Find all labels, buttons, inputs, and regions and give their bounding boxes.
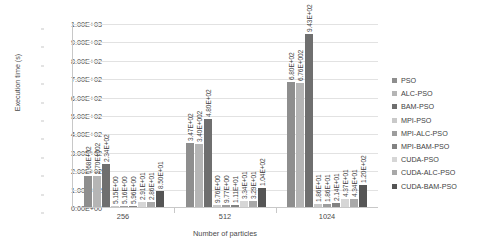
bar-value-label: 4.80E+02	[204, 89, 211, 117]
legend-item-mpi-alc-pso[interactable]: MPI-ALC-PSO	[392, 127, 484, 140]
bar-value-label: 2.14E+01	[333, 173, 340, 201]
bar[interactable]: 2.34E+02	[102, 164, 110, 207]
legend-item-cuda-alc-pso[interactable]: CUDA-ALC-PSO	[392, 166, 484, 179]
x-axis-separator	[174, 208, 175, 213]
bar[interactable]: 4.37E+01	[341, 199, 349, 207]
bar-value-label: 3.34E+01	[240, 171, 247, 199]
bar-value-label: 2.86E+01	[147, 172, 154, 200]
bar[interactable]: 1.86E+01	[323, 204, 331, 207]
bar-value-label: 2.34E+02	[102, 134, 109, 162]
bar-value-label: 5.16E+00	[120, 176, 127, 204]
bar-value-label: 4.34E+01	[351, 169, 358, 197]
plot-area: 1.68E+021.70E+0022.34E+025.15E+005.16E+0…	[72, 24, 378, 208]
bar-value-label: 1.11E+01	[231, 176, 238, 203]
bar[interactable]: 3.29E+01	[249, 201, 257, 207]
x-axis-tick-label: 256	[72, 212, 174, 221]
legend-item-bam-pso[interactable]: BAM-PSO	[392, 100, 484, 113]
legend-swatch-icon	[392, 104, 397, 109]
y-axis-tick-mark	[41, 157, 44, 158]
legend-item-pso[interactable]: PSO	[392, 74, 484, 87]
bar[interactable]: 5.16E+00	[120, 206, 128, 207]
bar[interactable]: 1.68E+02	[84, 176, 92, 207]
y-axis-tick-mark	[41, 139, 44, 140]
legend-label: CUDA-BAM-PSO	[401, 182, 457, 191]
x-axis-tick-label: 1024	[276, 212, 378, 221]
legend-label: CUDA-PSO	[401, 155, 439, 164]
bar[interactable]: 6.80E+02	[287, 82, 295, 207]
bar[interactable]: 1.11E+01	[231, 205, 239, 207]
bar[interactable]: 3.47E+02	[186, 143, 194, 207]
bar[interactable]: 5.96E+00	[129, 206, 137, 207]
bar-value-label: 9.77E+00	[222, 176, 229, 204]
bar[interactable]: 3.34E+01	[240, 201, 248, 207]
legend-swatch-icon	[392, 170, 397, 175]
bar[interactable]: 3.40E+002	[195, 144, 203, 207]
bar-value-label: 9.76E+00	[213, 176, 220, 204]
legend-item-cuda-bam-pso[interactable]: CUDA-BAM-PSO	[392, 180, 484, 193]
legend-label: MPI-PSO	[401, 116, 431, 125]
bar-value-label: 5.96E+00	[129, 176, 136, 204]
bar[interactable]: 6.76E+002	[296, 83, 304, 207]
x-axis-title: Number of particles	[72, 229, 378, 238]
legend-label: CUDA-ALC-PSO	[401, 168, 455, 177]
bar[interactable]: 8.50E+01	[156, 191, 164, 207]
bar[interactable]: 9.76E+00	[213, 205, 221, 207]
bar-value-label: 1.04E+02	[258, 158, 265, 186]
y-axis-tick-mark	[41, 84, 44, 85]
bar-value-label: 6.80E+02	[288, 52, 295, 80]
bar-group-256: 1.68E+021.70E+0022.34E+025.15E+005.16E+0…	[73, 24, 175, 207]
legend-item-alc-pso[interactable]: ALC-PSO	[392, 87, 484, 100]
y-axis-tick-mark	[41, 194, 44, 195]
bar-value-label: 1.68E+02	[84, 146, 91, 174]
bar-chart: Execution time (s) 1.00E+039.00E+028.00E…	[0, 0, 484, 248]
legend-swatch-icon	[392, 184, 397, 189]
bar[interactable]: 9.77E+00	[222, 205, 230, 207]
bar[interactable]: 1.20E+02	[359, 185, 367, 207]
bar-value-label: 2.91E+01	[138, 172, 145, 200]
bar[interactable]: 2.91E+01	[138, 202, 146, 207]
legend-item-mpi-bam-pso[interactable]: MPI-BAM-PSO	[392, 140, 484, 153]
y-axis-tick-mark	[41, 176, 44, 177]
bar[interactable]: 9.43E+02	[305, 34, 313, 208]
legend-swatch-icon	[392, 144, 397, 149]
legend-label: ALC-PSO	[401, 89, 433, 98]
y-axis-tick-mark	[41, 102, 44, 103]
legend-item-cuda-pso[interactable]: CUDA-PSO	[392, 153, 484, 166]
y-axis-tick-mark	[41, 29, 44, 30]
bar[interactable]: 1.70E+002	[93, 176, 101, 207]
y-axis-title: Execution time (s)	[13, 18, 22, 148]
bar[interactable]: 1.86E+01	[314, 204, 322, 207]
legend-swatch-icon	[392, 91, 397, 96]
bar-value-label: 4.37E+01	[342, 169, 349, 197]
legend-label: BAM-PSO	[401, 102, 434, 111]
bar-value-label: 3.47E+02	[186, 114, 193, 142]
bar-value-label: 8.50E+01	[156, 162, 163, 190]
y-axis-tick-mark	[41, 213, 44, 214]
bar[interactable]: 1.04E+02	[258, 188, 266, 207]
legend-label: MPI-BAM-PSO	[401, 142, 449, 151]
bar-value-label: 1.86E+01	[315, 174, 322, 202]
legend-item-mpi-pso[interactable]: MPI-PSO	[392, 114, 484, 127]
legend-label: PSO	[401, 76, 416, 85]
legend-swatch-icon	[392, 157, 397, 162]
bar-group-512: 3.47E+023.40E+0024.80E+029.76E+009.77E+0…	[175, 24, 277, 207]
legend-swatch-icon	[392, 131, 397, 136]
x-axis-tick-label: 512	[174, 212, 276, 221]
bar-groups: 1.68E+021.70E+0022.34E+025.15E+005.16E+0…	[73, 24, 378, 207]
x-axis-separator	[276, 208, 277, 213]
bar[interactable]: 2.86E+01	[147, 202, 155, 207]
bar[interactable]: 4.34E+01	[350, 199, 358, 207]
legend: PSOALC-PSOBAM-PSOMPI-PSOMPI-ALC-PSOMPI-B…	[392, 74, 484, 193]
y-axis-tick-mark	[41, 65, 44, 66]
bar-value-label: 1.20E+02	[360, 155, 367, 183]
bar[interactable]: 2.14E+01	[332, 203, 340, 207]
bar-value-label: 3.29E+01	[249, 171, 256, 199]
bar[interactable]: 5.15E+00	[111, 206, 119, 207]
legend-label: MPI-ALC-PSO	[401, 129, 448, 138]
bar[interactable]: 4.80E+02	[204, 119, 212, 207]
bar-value-label: 1.70E+002	[93, 143, 100, 174]
y-axis-tick-mark	[41, 47, 44, 48]
legend-swatch-icon	[392, 118, 397, 123]
bar-value-label: 9.43E+02	[306, 4, 313, 32]
bar-value-label: 3.40E+002	[195, 111, 202, 142]
